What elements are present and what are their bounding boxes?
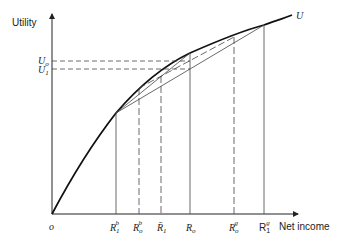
label-R1bar: R̄1: [156, 222, 167, 235]
chord-b-g-0: [139, 37, 234, 88]
label-R1b: R1b: [109, 219, 120, 235]
x-axis-label: Net income: [279, 221, 330, 232]
label-R1g: R1g: [259, 219, 270, 234]
utility-diagram: Utility Net income o U Uo U1 R1b Rob R̄1…: [0, 0, 342, 241]
utility-curve: [52, 15, 292, 214]
curve-label: U: [296, 10, 304, 21]
y-axis-label: Utility: [12, 17, 36, 28]
label-R0b: Rob: [132, 219, 143, 235]
chord-inner: [116, 53, 190, 113]
label-R0: Ro: [185, 222, 196, 235]
label-R0g: Rog: [228, 219, 239, 235]
origin-label: o: [49, 221, 54, 232]
